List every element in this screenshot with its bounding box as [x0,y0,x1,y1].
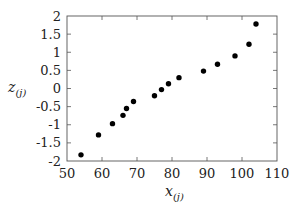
x-axis-label: x(j) [165,183,184,202]
x-tick-label: 60 [94,166,111,181]
data-point [124,106,129,111]
plot-frame [67,16,277,161]
data-point [176,75,181,80]
y-tick-label: -1.5 [36,135,61,150]
y-tick-label: 0 [53,81,61,96]
y-tick-label: 1.5 [40,27,61,42]
data-point [78,152,83,157]
y-tick-label: 2 [53,9,61,24]
y-axis-label: z(j) [7,79,26,98]
y-axis-ticks: -2-1.5-1-0.500.511.52 [36,9,277,169]
data-point [96,132,101,137]
y-tick-label: 1 [53,45,61,60]
scatter-chart: 5060708090100110 -2-1.5-1-0.500.511.52 x… [0,0,297,205]
data-point [253,21,258,26]
y-tick-label: -1 [48,117,61,132]
data-point [152,93,157,98]
data-point [110,121,115,126]
data-point [159,87,164,92]
data-point [120,113,125,118]
y-tick-label: -0.5 [36,99,61,114]
x-tick-label: 90 [199,166,216,181]
y-tick-label: 0.5 [40,63,61,78]
data-point [166,81,171,86]
data-point [246,42,251,47]
x-tick-label: 100 [230,166,255,181]
y-tick-label: -2 [48,154,61,169]
x-tick-label: 70 [129,166,146,181]
data-point [131,99,136,104]
axes-box [67,16,277,161]
x-axis-ticks: 5060708090100110 [59,16,290,181]
data-point [215,62,220,67]
data-point [201,68,206,73]
x-tick-label: 80 [164,166,181,181]
x-tick-label: 50 [59,166,76,181]
data-point [232,53,237,58]
x-tick-label: 110 [265,166,290,181]
data-points [78,21,258,157]
